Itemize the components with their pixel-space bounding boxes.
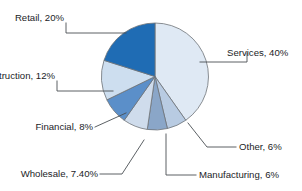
- pie-label-financial: Financial, 8%: [35, 121, 93, 132]
- leader-line-wholesale: [100, 140, 144, 174]
- pie-label-construction: Construction, 12%: [0, 70, 55, 81]
- pie-slices: [101, 23, 208, 130]
- leader-line-manufacturing: [166, 134, 196, 175]
- pie-label-manufacturing: Manufacturing, 6%: [199, 169, 279, 180]
- pie-label-retail: Retail, 20%: [15, 12, 65, 23]
- pie-chart-figure: Retail, 20% Services, 40% Construction, …: [0, 0, 302, 191]
- pie-label-services: Services, 40%: [227, 47, 289, 58]
- leader-line-financial: [95, 113, 126, 127]
- pie-label-other: Other, 6%: [239, 141, 282, 152]
- leader-line-retail: [66, 23, 126, 33]
- pie-label-wholesale: Wholesale, 7.40%: [21, 168, 99, 179]
- leader-line-other: [188, 123, 236, 147]
